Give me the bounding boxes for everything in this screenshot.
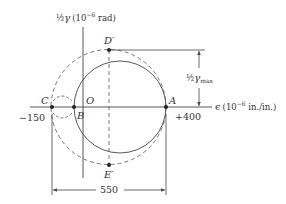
label-b: B [76,110,84,121]
point-b [72,105,76,109]
label-c: C [41,95,49,106]
point-c [50,105,54,109]
rotation-arc-top [53,96,72,101]
label-a: A [168,95,176,106]
point-d [107,48,111,52]
gamma-max-label: ½γmax [186,72,214,84]
label-o: O [86,95,94,106]
label-d: D′ [103,35,115,46]
value-span: 550 [100,184,118,195]
value-left: −150 [19,112,45,123]
value-right: +400 [175,111,201,122]
epsilon-axis-label: ϵ(10−6 in./in.) [215,100,276,112]
point-a [164,105,168,109]
rotation-arc-bottom [53,113,72,118]
label-e: E′ [103,169,114,180]
mohr-circle-diagram: ½γ(10−6 rad) ϵ(10−6 in./in.) C B O A D′ … [0,0,286,204]
gamma-axis-label: ½γ(10−6 rad) [56,11,116,23]
point-e [107,163,111,167]
